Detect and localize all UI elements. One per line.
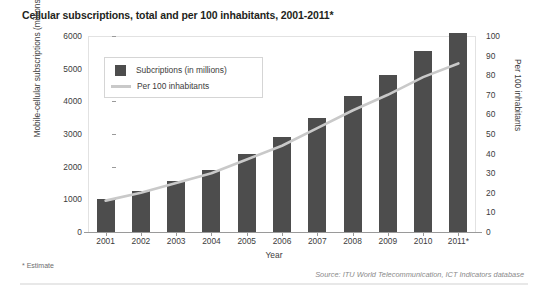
- bar-2011[interactable]: [449, 33, 467, 232]
- y-axis-left-tickmark: [112, 232, 116, 233]
- chart-legend: Subcriptions (in millions) Per 100 inhab…: [104, 57, 263, 98]
- y-axis-right-tick-label: 40: [486, 150, 510, 158]
- y-axis-right-tick-label: 90: [486, 52, 510, 60]
- bar-2005[interactable]: [238, 154, 256, 232]
- x-axis-tickmark: [176, 232, 177, 236]
- bar-2003[interactable]: [167, 181, 185, 232]
- square-swatch-icon: [115, 65, 126, 76]
- legend-item-subscriptions[interactable]: Subcriptions (in millions): [115, 63, 227, 77]
- x-axis-tickmark: [317, 232, 318, 236]
- bar-2002[interactable]: [132, 191, 150, 232]
- x-axis-tickmark: [141, 232, 142, 236]
- bar-2001[interactable]: [97, 199, 115, 232]
- bar-2004[interactable]: [202, 170, 220, 232]
- legend-item-label: Per 100 inhabitants: [137, 81, 209, 91]
- y-axis-left-tick-label: 6000: [36, 32, 82, 40]
- x-axis-tickmark: [282, 232, 283, 236]
- y-axis-right-tick-label: 20: [486, 189, 510, 197]
- bar-2007[interactable]: [308, 118, 326, 232]
- chart-figure: Cellular subscriptions, total and per 10…: [0, 0, 548, 289]
- x-axis-tickmark: [458, 232, 459, 236]
- bar-2009[interactable]: [379, 75, 397, 232]
- x-axis-tickmark: [353, 232, 354, 236]
- x-axis-tickmark: [423, 232, 424, 236]
- bar-2006[interactable]: [273, 137, 291, 232]
- legend-item-label: Subcriptions (in millions): [136, 65, 227, 75]
- x-axis-tickmark: [106, 232, 107, 236]
- y-axis-right-tick-label: 70: [486, 91, 510, 99]
- y-axis-right-tick-label: 50: [486, 130, 510, 138]
- line-swatch-icon: [111, 85, 131, 88]
- y-axis-left-tick-label: 4000: [36, 97, 82, 105]
- estimate-footnote: * Estimate: [22, 262, 54, 269]
- y-axis-right-title: Per 100 inhabitants: [513, 25, 523, 165]
- bar-2010[interactable]: [414, 51, 432, 232]
- y-axis-right-tickmark: [478, 232, 482, 233]
- legend-item-per-100-inhabitants[interactable]: Per 100 inhabitants: [115, 79, 209, 93]
- y-axis-left-tick-label: 0: [36, 228, 82, 236]
- y-axis-right-tick-label: 0: [486, 228, 510, 236]
- y-axis-left-tick-label: 5000: [36, 65, 82, 73]
- y-axis-right-tick-label: 100: [486, 32, 510, 40]
- source-note: Source: ITU World Telecommunication, ICT…: [315, 270, 524, 279]
- y-axis-right-ticks: 0102030405060708090100: [478, 0, 518, 289]
- x-axis-tickmark: [247, 232, 248, 236]
- y-axis-right-tick-label: 10: [486, 208, 510, 216]
- bottom-divider: [20, 283, 528, 285]
- x-axis-title: Year: [0, 250, 548, 260]
- x-axis-tickmark: [388, 232, 389, 236]
- y-axis-left-tick-label: 1000: [36, 195, 82, 203]
- y-axis-left-tick-label: 2000: [36, 163, 82, 171]
- x-axis-tick-label: 2011*: [436, 236, 480, 246]
- y-axis-right-tick-label: 30: [486, 169, 510, 177]
- bar-2008[interactable]: [344, 96, 362, 232]
- x-axis-tickmark: [211, 232, 212, 236]
- y-axis-right-tick-label: 80: [486, 71, 510, 79]
- y-axis-left-tick-label: 3000: [36, 130, 82, 138]
- y-axis-left-ticks: 0100020003000400050006000: [32, 0, 82, 289]
- y-axis-right-tick-label: 60: [486, 110, 510, 118]
